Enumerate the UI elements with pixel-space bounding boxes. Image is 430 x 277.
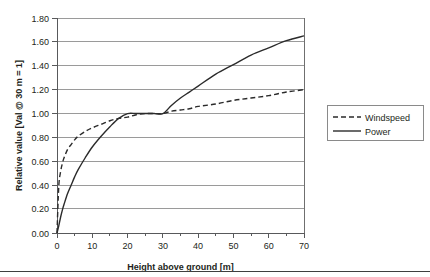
x-tick-label-0: 0: [54, 241, 59, 251]
y-tick-label-0-20: 0.20: [31, 204, 49, 214]
y-tick-label-1-00: 1.00: [31, 109, 49, 119]
chart-figure: 1.80 1.60 1.40 1.20 1.00 0.80 0.60 0.40 …: [0, 0, 430, 277]
x-axis-title: Height above ground [m]: [127, 262, 234, 272]
x-tick-label-50: 50: [228, 241, 238, 251]
legend-label-windspeed: Windspeed: [365, 113, 410, 123]
x-tick-label-30: 30: [158, 241, 168, 251]
y-tick-label-0-40: 0.40: [31, 181, 49, 191]
y-axis-title: Relative value [Val @ 30 m = 1]: [14, 60, 24, 191]
x-tick-label-20: 20: [123, 241, 133, 251]
x-tick-label-40: 40: [193, 241, 203, 251]
legend: Windspeed Power: [328, 106, 424, 141]
x-tick-label-10: 10: [87, 241, 97, 251]
y-tick-label-1-40: 1.40: [31, 61, 49, 71]
y-tick-label-0-00: 0.00: [31, 229, 49, 239]
x-tick-label-60: 60: [264, 241, 274, 251]
x-tick-label-70: 70: [299, 241, 309, 251]
legend-label-power: Power: [365, 127, 391, 137]
y-tick-label-1-80: 1.80: [31, 14, 49, 24]
plot-area-background: [57, 18, 304, 233]
y-tick-label-0-80: 0.80: [31, 133, 49, 143]
y-tick-label-1-20: 1.20: [31, 85, 49, 95]
y-tick-label-0-60: 0.60: [31, 157, 49, 167]
y-tick-label-1-60: 1.60: [31, 37, 49, 47]
